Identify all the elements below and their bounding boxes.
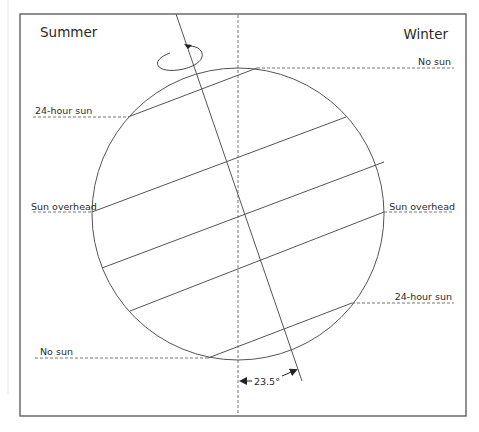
latitude-line-tropic-cancer bbox=[92, 117, 346, 212]
earth-axial-tilt-diagram: Summer Winter No sun 24-hour sun Sun ove… bbox=[0, 0, 479, 432]
summer-title: Summer bbox=[40, 24, 98, 40]
latitude-line-tropic-capricorn bbox=[130, 212, 384, 311]
latitude-line-equator bbox=[102, 162, 384, 268]
rotation-arrow-ellipse bbox=[158, 46, 203, 70]
rotation-axis bbox=[176, 14, 302, 381]
latitude-line-antarctic bbox=[208, 303, 352, 358]
tilt-angle-label: 23.5° bbox=[254, 376, 280, 387]
label-right-24-hour-sun: 24-hour sun bbox=[395, 291, 452, 302]
label-bottom-left-no-sun: No sun bbox=[40, 346, 73, 357]
label-top-right-no-sun: No sun bbox=[418, 56, 451, 67]
winter-title: Winter bbox=[403, 26, 448, 42]
label-right-sun-overhead: Sun overhead bbox=[389, 201, 455, 212]
label-left-24-hour-sun: 24-hour sun bbox=[35, 105, 92, 116]
tilt-arrow-right bbox=[282, 370, 296, 376]
label-left-sun-overhead: Sun overhead bbox=[31, 201, 97, 212]
